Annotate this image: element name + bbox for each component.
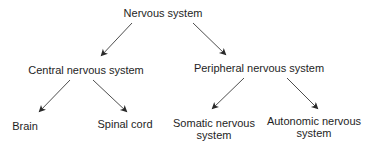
arrow-pns-to-autonomic (287, 78, 318, 109)
node-label-line-2: system (267, 127, 361, 139)
node-autonomic-nervous-system: Autonomic nervous system (267, 115, 361, 139)
node-central-nervous-system: Central nervous system (28, 64, 144, 76)
nervous-system-diagram: Nervous system Central nervous system Pe… (0, 0, 375, 149)
node-label: Brain (12, 120, 38, 132)
arrow-cns-to-spinal_cord (93, 80, 127, 112)
arrow-cns-to-brain (39, 80, 70, 112)
node-peripheral-nervous-system: Peripheral nervous system (194, 62, 324, 74)
node-label: Nervous system (124, 7, 203, 19)
node-label-line-2: system (173, 129, 255, 141)
node-brain: Brain (12, 120, 38, 132)
arrow-root-to-cns (101, 23, 132, 56)
arrow-root-to-pns (193, 23, 226, 55)
node-label-line-1: Somatic nervous (173, 117, 255, 129)
node-label: Spinal cord (97, 118, 152, 130)
node-spinal-cord: Spinal cord (97, 118, 152, 130)
arrow-pns-to-somatic (212, 78, 244, 109)
node-label: Peripheral nervous system (194, 62, 324, 74)
node-nervous-system: Nervous system (124, 7, 203, 19)
node-label-line-1: Autonomic nervous (267, 115, 361, 127)
node-somatic-nervous-system: Somatic nervous system (173, 117, 255, 141)
node-label: Central nervous system (28, 64, 144, 76)
